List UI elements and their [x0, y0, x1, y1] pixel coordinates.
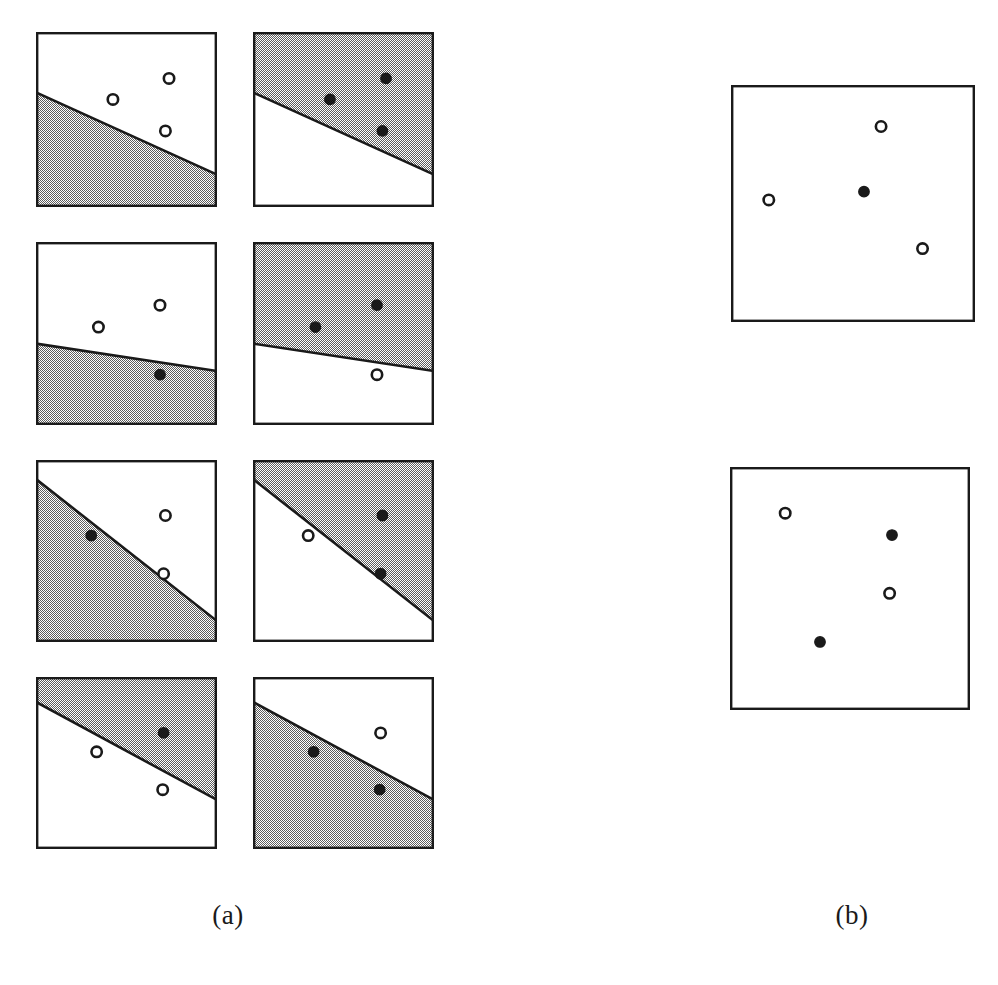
data-point-filled	[158, 728, 168, 738]
data-point-open	[303, 530, 313, 540]
data-point-filled	[308, 747, 318, 757]
data-point-filled	[887, 530, 897, 540]
data-point-filled	[375, 569, 385, 579]
data-point-filled	[815, 637, 825, 647]
data-point-open	[917, 243, 927, 253]
data-point-filled	[377, 510, 387, 520]
data-point-open	[372, 369, 382, 379]
data-point-open	[884, 588, 894, 598]
data-point-filled	[310, 322, 320, 332]
data-point-open	[160, 510, 170, 520]
data-point-filled	[155, 369, 165, 379]
data-point-open	[164, 73, 174, 83]
panel-b-top	[731, 85, 975, 322]
panel-a-r3-right	[253, 460, 434, 642]
data-point-open	[91, 747, 101, 757]
data-point-open	[375, 728, 385, 738]
data-point-filled	[377, 126, 387, 136]
panel-a-r4-left	[36, 677, 217, 849]
panel-a-r4-right	[253, 677, 434, 849]
caption-label-a: (a)	[128, 900, 328, 931]
data-point-filled	[86, 530, 96, 540]
data-point-open	[93, 322, 103, 332]
data-point-open	[780, 508, 790, 518]
figure-root: (a) (b)	[0, 0, 998, 985]
data-point-filled	[859, 186, 869, 196]
data-point-filled	[325, 94, 335, 104]
data-point-open	[155, 300, 165, 310]
caption-label-b: (b)	[752, 900, 952, 931]
panel-a-r1-left	[36, 32, 217, 207]
data-point-open	[764, 195, 774, 205]
panel-a-r3-left	[36, 460, 217, 642]
data-point-open	[158, 569, 168, 579]
panel-b-bottom	[730, 467, 970, 710]
data-point-filled	[381, 73, 391, 83]
data-point-open	[876, 121, 886, 131]
data-point-open	[160, 126, 170, 136]
data-point-filled	[372, 300, 382, 310]
data-point-open	[158, 784, 168, 794]
data-point-filled	[375, 784, 385, 794]
panel-a-r2-left	[36, 242, 217, 425]
data-point-open	[108, 94, 118, 104]
panel-a-r1-right	[253, 32, 434, 207]
panel-a-r2-right	[253, 242, 434, 425]
